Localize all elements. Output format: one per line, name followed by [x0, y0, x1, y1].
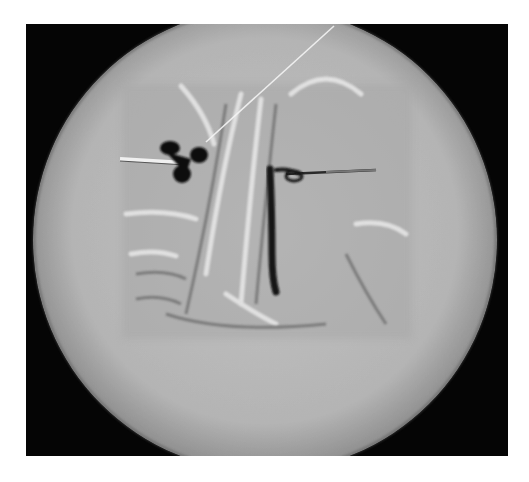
image-frame — [26, 24, 508, 456]
fluoroscopy-image — [26, 24, 508, 456]
